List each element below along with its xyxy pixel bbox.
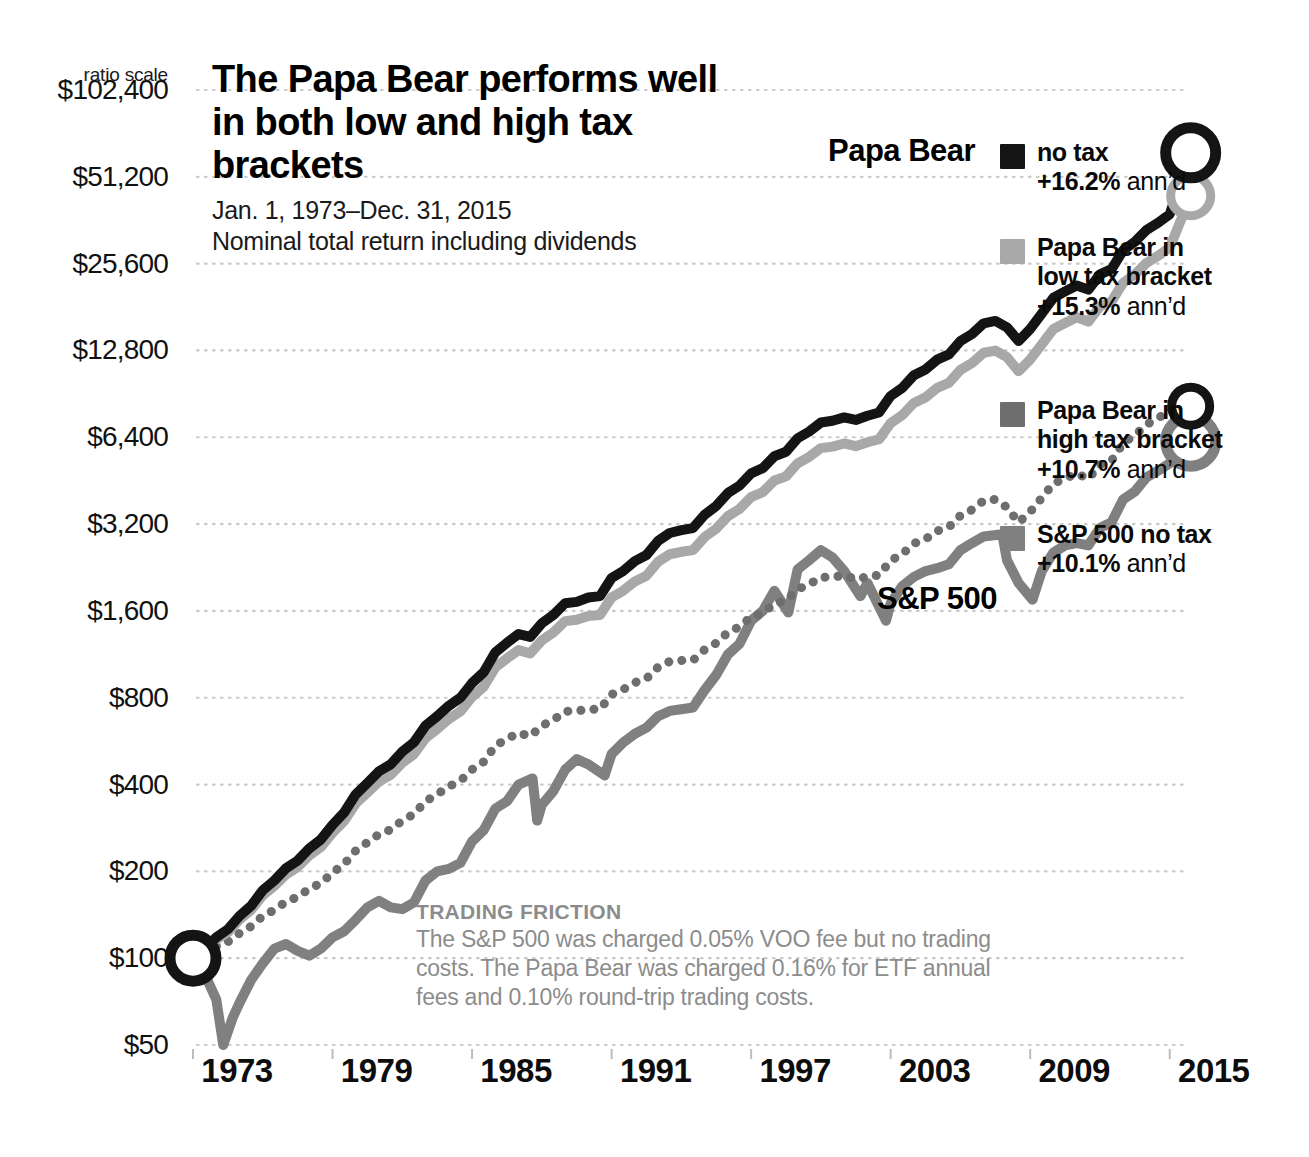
y-axis-tick: $25,600 [0, 248, 168, 280]
y-axis-tick: $51,200 [0, 161, 168, 193]
legend-label: S&P 500 no tax+10.1% ann’d [1037, 520, 1212, 579]
legend-annualized-return: +16.2% [1037, 167, 1120, 195]
chart-figure: ratio scale $102,400$51,200$25,600$12,80… [0, 0, 1309, 1157]
x-axis-tick: 2015 [1178, 1052, 1249, 1090]
x-axis-tick: 1991 [620, 1052, 691, 1090]
y-axis-tick: $6,400 [0, 421, 168, 453]
legend-item[interactable]: no tax+16.2% ann’d [1000, 138, 1300, 197]
x-axis-tick: 1979 [341, 1052, 412, 1090]
y-axis-tick: $3,200 [0, 508, 168, 540]
legend-annualized-return: +15.3% [1037, 292, 1120, 320]
legend-annualized-return: +10.7% [1037, 455, 1120, 483]
x-axis-tick: 1985 [480, 1052, 551, 1090]
trading-friction-note: TRADING FRICTION The S&P 500 was charged… [416, 900, 1011, 1012]
legend-line-1: Papa Bear in [1037, 396, 1222, 425]
y-axis-tick: $200 [0, 855, 168, 887]
legend-label: Papa Bear inlow tax bracket+15.3% ann’d [1037, 233, 1212, 321]
y-axis-tick: $50 [0, 1029, 168, 1061]
page-title: The Papa Bear performs well in both low … [212, 58, 732, 187]
legend-item[interactable]: Papa Bear inlow tax bracket+15.3% ann’d [1000, 233, 1300, 321]
headline-block: The Papa Bear performs well in both low … [212, 58, 732, 256]
legend-line-2: high tax bracket [1037, 425, 1222, 454]
legend-performance: +10.7% ann’d [1037, 455, 1222, 484]
legend-performance: +16.2% ann’d [1037, 167, 1186, 196]
legend-item[interactable]: S&P 500 no tax+10.1% ann’d [1000, 520, 1300, 579]
legend-annualized-suffix: ann’d [1120, 292, 1186, 320]
y-axis-tick: $102,400 [0, 74, 168, 106]
y-axis-tick: $800 [0, 682, 168, 714]
legend-line-1: S&P 500 no tax [1037, 520, 1212, 549]
callout-sp500: S&P 500 [877, 581, 997, 617]
callout-papa-bear: Papa Bear [828, 133, 975, 169]
y-axis-tick: $400 [0, 769, 168, 801]
x-axis-tick: 2003 [899, 1052, 970, 1090]
legend-annualized-return: +10.1% [1037, 549, 1120, 577]
date-range: Jan. 1, 1973–Dec. 31, 2015 [212, 196, 732, 225]
legend-label: Papa Bear inhigh tax bracket+10.7% ann’d [1037, 396, 1222, 484]
legend-performance: +10.1% ann’d [1037, 549, 1212, 578]
trading-friction-title: TRADING FRICTION [416, 900, 1011, 924]
trading-friction-body: The S&P 500 was charged 0.05% VOO fee bu… [416, 925, 1011, 1012]
legend-swatch-icon [1000, 526, 1025, 551]
legend-line-1: no tax [1037, 138, 1186, 167]
x-axis-tick: 1973 [201, 1052, 272, 1090]
legend-annualized-suffix: ann’d [1120, 455, 1186, 483]
legend-swatch-icon [1000, 144, 1025, 169]
endpoint-marker [170, 935, 216, 981]
legend-swatch-icon [1000, 402, 1025, 427]
legend-item[interactable]: Papa Bear inhigh tax bracket+10.7% ann’d [1000, 396, 1300, 484]
y-axis-tick: $100 [0, 942, 168, 974]
legend-annualized-suffix: ann’d [1120, 549, 1186, 577]
legend-label: no tax+16.2% ann’d [1037, 138, 1186, 197]
y-axis-tick: $1,600 [0, 595, 168, 627]
legend-annualized-suffix: ann’d [1120, 167, 1186, 195]
y-axis-tick: $12,800 [0, 334, 168, 366]
legend-performance: +15.3% ann’d [1037, 292, 1212, 321]
legend-line-1: Papa Bear in [1037, 233, 1212, 262]
x-axis-tick: 2009 [1038, 1052, 1109, 1090]
series-line [193, 406, 1191, 958]
legend-swatch-icon [1000, 239, 1025, 264]
legend-line-2: low tax bracket [1037, 262, 1212, 291]
subnote: Nominal total return including dividends [212, 227, 732, 256]
x-axis-tick: 1997 [759, 1052, 830, 1090]
